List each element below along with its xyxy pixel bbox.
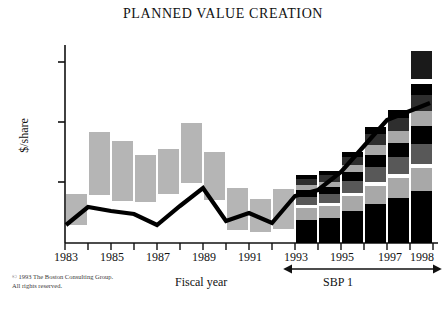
copyright-line-2: All rights reserved. <box>12 281 113 290</box>
y-axis-ticks <box>58 62 65 182</box>
range-bar-1988 <box>181 123 202 183</box>
x-axis-label: Fiscal year <box>175 275 227 290</box>
stacked-bar-1998 <box>411 51 432 243</box>
range-bar-1986 <box>135 155 156 202</box>
range-bar-1984 <box>89 132 110 195</box>
x-tick-label-1983: 1983 <box>54 250 78 265</box>
sbp-annotation-label: SBP 1 <box>323 275 353 290</box>
x-tick-label-1997: 1997 <box>378 250 402 265</box>
x-tick-label-1991: 1991 <box>238 250 262 265</box>
range-bar-1987 <box>158 149 179 194</box>
x-tick-label-1993: 1993 <box>284 250 308 265</box>
x-tick-label-1995: 1995 <box>330 250 354 265</box>
range-bar-1985 <box>112 141 133 201</box>
stacked-bar-1997 <box>388 110 409 243</box>
copyright-line-1: © 1993 The Boston Consulting Group. <box>12 272 113 281</box>
x-tick-label-1985: 1985 <box>100 250 124 265</box>
stacked-bar-1993 <box>296 175 317 243</box>
chart-plot-area <box>0 0 446 312</box>
range-bar-1990 <box>227 188 248 230</box>
x-tick-label-1987: 1987 <box>146 250 170 265</box>
x-tick-label-1989: 1989 <box>192 250 216 265</box>
x-tick-label-1998: 1998 <box>410 250 434 265</box>
x-axis-ticks <box>65 243 433 250</box>
copyright-notice: © 1993 The Boston Consulting Group. All … <box>12 272 113 290</box>
chart-container: PLANNED VALUE CREATION $/share <box>0 0 446 312</box>
